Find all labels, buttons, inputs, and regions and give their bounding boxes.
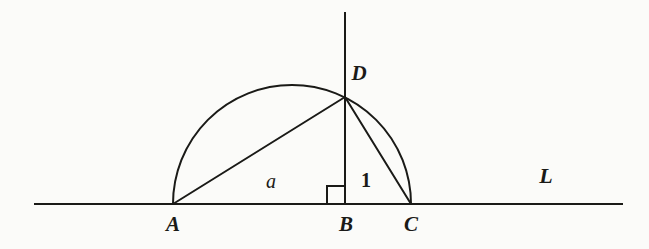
vertex-label-c: C: [404, 214, 418, 235]
right-angle-marker: [327, 186, 345, 204]
segment-ad: [173, 97, 345, 204]
line-label-l: L: [539, 165, 552, 187]
geometry-figure: A B C D a 1 L: [0, 0, 649, 249]
vertex-label-b: B: [339, 214, 353, 235]
segment-length-label-one: 1: [361, 170, 371, 190]
figure-canvas: [0, 0, 649, 249]
vertex-label-d: D: [351, 63, 366, 84]
vertex-label-a: A: [166, 214, 180, 235]
segment-dc: [345, 97, 411, 204]
segment-length-label-a: a: [266, 171, 276, 191]
